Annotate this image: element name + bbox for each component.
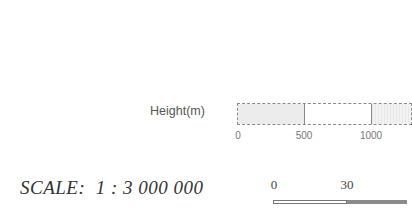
height-legend-label: Height(m) bbox=[150, 104, 205, 118]
height-band-500-1000 bbox=[305, 104, 372, 124]
scale-bar-tick-0: 0 bbox=[271, 177, 278, 193]
scale-bar-segment-dark bbox=[347, 200, 407, 204]
scale-bar-tick-30: 30 bbox=[341, 177, 354, 193]
height-tick-1000: 1000 bbox=[360, 130, 382, 141]
height-band-1000-plus bbox=[372, 104, 411, 124]
height-color-bar bbox=[237, 103, 412, 125]
height-tick-500: 500 bbox=[296, 130, 313, 141]
scale-ratio-text: SCALE: 1 : 3 000 000 bbox=[20, 177, 204, 199]
height-band-0-500 bbox=[238, 104, 305, 124]
scale-bar-segment-light bbox=[273, 200, 347, 204]
height-tick-0: 0 bbox=[235, 130, 241, 141]
